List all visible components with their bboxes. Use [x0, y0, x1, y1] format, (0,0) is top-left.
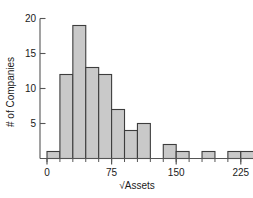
x-axis-title: √Assets [119, 180, 155, 191]
histogram-bar [163, 145, 176, 159]
histogram-bar [202, 152, 215, 159]
y-tick-label: 15 [25, 48, 37, 59]
histogram-bar [125, 131, 138, 159]
y-tick-label: 20 [25, 13, 37, 24]
histogram-figure: # of Companies √Assets 5101520075150225 [0, 0, 253, 198]
histogram-bar [86, 68, 99, 159]
y-axis-title: # of Companies [5, 57, 16, 127]
histogram-bar [176, 152, 189, 159]
histogram-bar [228, 152, 241, 159]
x-tick-label: 0 [44, 167, 50, 178]
x-tick-label: 150 [168, 167, 185, 178]
x-tick-label: 75 [106, 167, 118, 178]
y-tick-label: 10 [25, 83, 37, 94]
plot-content: 5101520075150225 [25, 13, 253, 177]
histogram-bar [112, 110, 125, 159]
histogram-bar [137, 124, 150, 159]
histogram-bar [241, 152, 253, 159]
chart-canvas: # of Companies √Assets 5101520075150225 [0, 0, 253, 198]
histogram-bar [99, 75, 112, 159]
x-tick-label: 225 [232, 167, 249, 178]
histogram-bar [60, 75, 73, 159]
histogram-bar [47, 152, 60, 159]
histogram-bar [73, 26, 86, 159]
y-tick-label: 5 [30, 118, 36, 129]
